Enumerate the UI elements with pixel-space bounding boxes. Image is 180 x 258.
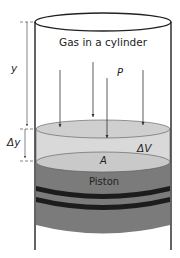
pressure-label: P: [117, 67, 124, 78]
volume-change-label: ΔV: [136, 142, 152, 154]
title-label: Gas in a cylinder: [59, 36, 148, 48]
cylinder-top-rim: [35, 13, 171, 31]
area-label: A: [99, 155, 107, 166]
height-change-label: Δy: [6, 136, 21, 148]
gas-surface-ellipse: [36, 120, 170, 138]
gas-cylinder-diagram: Gas in a cylinder P y Δy ΔV A Piston: [0, 0, 180, 258]
piston-label: Piston: [89, 176, 119, 187]
dimension-markers: [20, 22, 34, 161]
height-label: y: [10, 62, 18, 74]
